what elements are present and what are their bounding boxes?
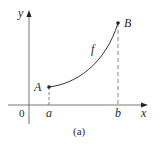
origin-label: 0: [19, 107, 25, 119]
point-b-dot: [116, 21, 120, 25]
point-a-label: A: [33, 80, 42, 94]
b-tick-label: b: [115, 106, 121, 120]
y-axis-label: y: [17, 6, 24, 20]
y-axis-arrow-icon: [27, 10, 32, 17]
point-a-dot: [47, 85, 51, 89]
figure-caption: (a): [73, 125, 86, 138]
curve-f: [49, 23, 118, 87]
point-b-label: B: [124, 16, 132, 30]
curve-f-label: f: [91, 42, 96, 56]
graph-diagram: y x 0 A B f a b (a): [0, 0, 165, 144]
x-axis-label: x: [140, 106, 147, 120]
a-tick-label: a: [46, 106, 52, 120]
